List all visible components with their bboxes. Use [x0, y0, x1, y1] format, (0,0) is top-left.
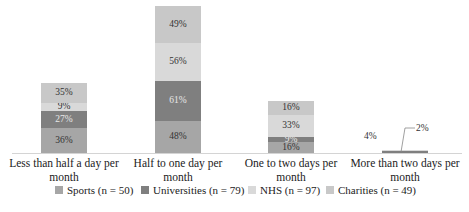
bar-one-to-two-days: 16%9%33%16%	[268, 101, 314, 153]
data-label-nhs-more-than-two-days: 4%	[364, 131, 377, 141]
category-label-more-than-two-days: More than two days per month	[348, 156, 462, 184]
legend-swatch-charities	[326, 186, 334, 194]
category-label-one-to-two-days: One to two days per month	[234, 156, 348, 184]
data-label: 49%	[169, 20, 186, 30]
legend-item-nhs: NHS (n = 97)	[248, 184, 320, 196]
bar-segment-charities: 49%	[155, 6, 201, 43]
category-label-half-to-one-day: Half to one day per month	[121, 156, 235, 184]
bar-half-to-one-day: 48%61%56%49%	[155, 6, 201, 153]
legend-swatch-nhs	[248, 186, 256, 194]
data-label: 27%	[55, 115, 72, 125]
legend-item-universities: Universities (n = 79)	[141, 184, 244, 196]
bar-less-than-half-day: 36%27%9%35%	[41, 83, 87, 153]
data-label: 33%	[282, 121, 299, 131]
legend: Sports (n = 50) Universities (n = 79) NH…	[0, 184, 469, 198]
stacked-bar-chart: 36%27%9%35% 48%61%56%49% 16%9%33%16% 4% …	[0, 0, 469, 212]
bar-segment-nhs: 9%	[41, 103, 87, 111]
bar-segment-nhs: 33%	[268, 115, 314, 137]
bar-segment-charities: 16%	[268, 101, 314, 115]
data-label: 16%	[282, 103, 299, 113]
data-label: 61%	[169, 96, 186, 106]
bar-segment-nhs: 56%	[155, 43, 201, 81]
legend-item-sports: Sports (n = 50)	[55, 184, 133, 196]
x-axis-line	[12, 153, 462, 154]
bar-segment-universities: 27%	[41, 111, 87, 128]
data-label: 36%	[55, 136, 72, 146]
legend-swatch-universities	[141, 186, 149, 194]
category-label-less-than-half-day: Less than half a day per month	[7, 156, 121, 184]
legend-item-charities: Charities (n = 49)	[326, 184, 416, 196]
bar-segment-universities: 61%	[155, 81, 201, 121]
bar-segment-sports: 48%	[155, 121, 201, 153]
data-label-universities-more-than-two-days: 2%	[416, 123, 429, 133]
bar-segment-sports: 36%	[41, 128, 87, 153]
bar-segment-universities: 9%	[268, 137, 314, 142]
data-label: 9%	[58, 102, 71, 112]
bar-segment-charities: 35%	[41, 83, 87, 103]
legend-swatch-sports	[55, 186, 63, 194]
data-label: 48%	[169, 132, 186, 142]
data-label: 56%	[169, 57, 186, 67]
data-label: 35%	[55, 88, 72, 98]
